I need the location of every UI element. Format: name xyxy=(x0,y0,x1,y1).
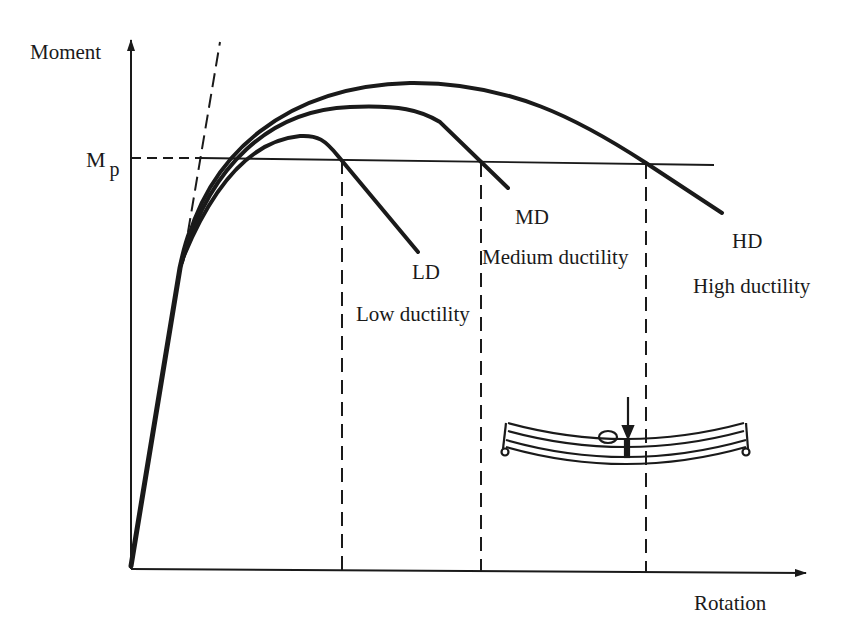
ld-curve xyxy=(183,136,418,258)
hd-name-label: High ductility xyxy=(693,276,810,297)
hd-code-label: HD xyxy=(732,231,762,252)
x-axis-label: Rotation xyxy=(694,593,766,614)
md-curve xyxy=(182,107,508,262)
x-axis xyxy=(131,569,806,573)
mp-subscript: p xyxy=(110,158,120,180)
mp-line xyxy=(131,158,714,165)
md-code-label: MD xyxy=(515,207,549,228)
hd-curve xyxy=(182,83,722,262)
mp-symbol: M xyxy=(86,147,106,172)
beam-sketch-icon xyxy=(502,397,750,464)
ld-name-label: Low ductility xyxy=(356,304,470,325)
md-name-label: Medium ductility xyxy=(482,247,628,268)
ld-code-label: LD xyxy=(412,262,440,283)
y-axis-label: Moment xyxy=(30,42,101,63)
mp-label: Mp xyxy=(86,149,120,179)
elastic-branch xyxy=(131,232,190,566)
